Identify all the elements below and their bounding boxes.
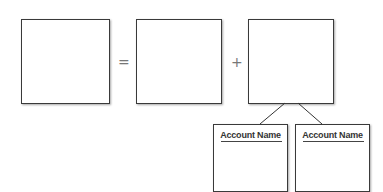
- sub-account-box-right: Account Name: [295, 124, 370, 192]
- account-title-underline: [221, 141, 282, 142]
- account-name-label: Account Name: [214, 130, 287, 140]
- account-title-underline: [303, 141, 364, 142]
- sub-account-box-left: Account Name: [213, 124, 288, 192]
- account-name-label: Account Name: [296, 130, 369, 140]
